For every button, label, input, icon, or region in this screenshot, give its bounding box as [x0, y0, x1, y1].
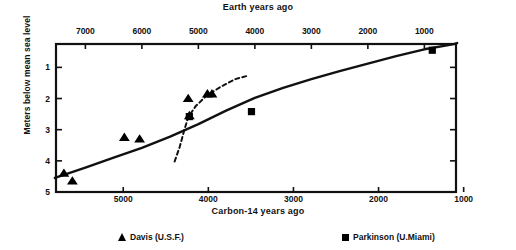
top-tick-4000: 4000 [233, 26, 277, 36]
triangle-marker-icon [118, 233, 126, 241]
bottom-tick-1000: 1000 [442, 194, 486, 204]
data-point-triangle [67, 176, 78, 184]
legend: Davis (U.S.F.) Parkinson (U.Miami) [0, 232, 516, 248]
fitted-curves [55, 43, 457, 178]
data-point-square [248, 108, 255, 115]
top-tick-1000: 1000 [402, 26, 446, 36]
data-point-triangle [183, 94, 194, 102]
legend-label-parkinson: Parkinson (U.Miami) [353, 232, 435, 242]
bottom-tick-3000: 3000 [271, 194, 315, 204]
y-tick-3: 3 [34, 125, 50, 135]
sea-level-curve-solid [55, 43, 457, 178]
plot-frame [56, 44, 456, 192]
y-tick-2: 2 [34, 94, 50, 104]
bottom-tick-5000: 5000 [101, 194, 145, 204]
legend-label-davis: Davis (U.S.F.) [130, 232, 184, 242]
bottom-axis-title: Carbon-14 years ago [0, 206, 516, 216]
data-points [59, 47, 436, 185]
y-tick-1: 1 [34, 62, 50, 72]
top-tick-5000: 5000 [176, 26, 220, 36]
data-point-square [186, 113, 193, 120]
bottom-tick-2000: 2000 [357, 194, 401, 204]
bottom-tick-4000: 4000 [186, 194, 230, 204]
axis-ticks [56, 44, 464, 192]
square-marker-icon [342, 234, 349, 241]
y-tick-5: 5 [34, 187, 50, 197]
top-tick-7000: 7000 [63, 26, 107, 36]
top-tick-6000: 6000 [120, 26, 164, 36]
top-tick-3000: 3000 [289, 26, 333, 36]
legend-item-parkinson: Parkinson (U.Miami) [342, 232, 435, 242]
data-point-triangle [119, 133, 130, 141]
y-tick-4: 4 [34, 156, 50, 166]
top-tick-2000: 2000 [346, 26, 390, 36]
legend-item-davis: Davis (U.S.F.) [118, 232, 184, 242]
data-point-triangle [134, 134, 145, 142]
chart-figure: Earth years ago Meters below mean sea le… [0, 0, 516, 250]
data-point-square [429, 47, 436, 54]
